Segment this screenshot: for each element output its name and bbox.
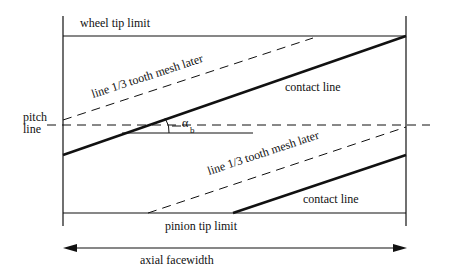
- axial-facewidth-label: axial facewidth: [140, 253, 214, 267]
- arrow-right-head-icon: [393, 244, 407, 252]
- upper-contact-line: [63, 36, 406, 155]
- upper-contact-label: contact line: [285, 80, 341, 94]
- line-label: line: [23, 122, 41, 136]
- pinion-tip-limit-label: pinion tip limit: [165, 219, 238, 233]
- wheel-tip-limit-label: wheel tip limit: [80, 16, 151, 30]
- angle-subscript-label: b: [190, 125, 195, 135]
- angle-symbol-label: α: [182, 116, 189, 130]
- upper-dashed-label: line 1/3 tooth mesh later: [90, 51, 205, 101]
- lower-dashed-label: line 1/3 tooth mesh later: [206, 128, 321, 178]
- upper-dashed-line: [63, 38, 313, 120]
- lower-contact-label: contact line: [303, 192, 359, 206]
- arrow-left-head-icon: [63, 244, 77, 252]
- helical-gear-contact-diagram: wheel tip limit pinion tip limit pitch l…: [0, 0, 453, 273]
